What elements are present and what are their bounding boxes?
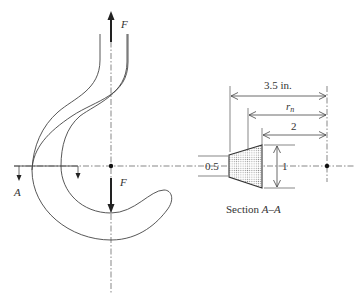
hook-left-strand	[32, 34, 100, 170]
force-label-top: F	[120, 18, 128, 30]
diagram-svg: F F A 0.5 1 3.5 in. rn 2 Section A–A	[0, 0, 361, 293]
hook-diagram: F F A 0.5 1 3.5 in. rn 2 Section A–A	[0, 0, 361, 293]
force-arrow-down-head	[108, 204, 115, 213]
hook-center-point	[109, 164, 113, 168]
dim-neutral-radius-label: rn	[286, 100, 294, 114]
hook-inner-edge	[32, 34, 100, 160]
section-arrow-left-head	[17, 175, 22, 181]
force-arrow-up-head	[108, 11, 115, 20]
hook-inner-strand	[32, 34, 100, 166]
section-marker-label: A	[13, 186, 21, 198]
section-arrow-right-head	[76, 173, 81, 179]
hook-strand-left	[32, 34, 100, 168]
cross-section-trapezoid	[229, 145, 262, 188]
hook-outer-curve	[32, 34, 172, 240]
force-label-bottom: F	[119, 176, 127, 188]
hook-right-strand	[61, 34, 127, 213]
dim-inner-radius-label: 2	[291, 120, 297, 132]
hook-inner-curve	[61, 34, 128, 213]
hook-shank-left	[34, 34, 100, 160]
dim-outer-radius-label: 3.5 in.	[264, 79, 292, 91]
section-caption: Section A–A	[226, 203, 281, 215]
dim-height-label: 1	[282, 160, 288, 172]
section-center-point	[325, 164, 329, 168]
dim-inner-width-label: 0.5	[205, 160, 219, 172]
